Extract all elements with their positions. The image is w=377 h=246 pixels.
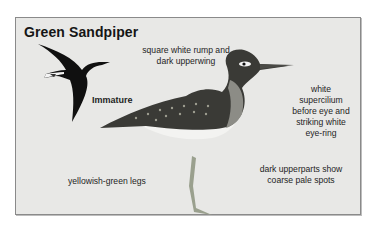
supercilium-line4: striking white bbox=[284, 117, 358, 128]
supercilium-line3: before eye and bbox=[284, 106, 358, 117]
rump-annotation: square white rump and dark upperwing bbox=[126, 45, 246, 67]
upperparts-annotation: dark upperparts show coarse pale spots bbox=[252, 164, 350, 186]
supercilium-annotation: white supercilium before eye and strikin… bbox=[284, 84, 358, 139]
flying-bird-icon bbox=[38, 44, 110, 122]
supercilium-line2: supercilium bbox=[284, 95, 358, 106]
legs-annotation: yellowish-green legs bbox=[68, 176, 146, 187]
supercilium-line5: eye-ring bbox=[284, 128, 358, 139]
rump-annotation-line2: dark upperwing bbox=[126, 56, 246, 67]
standing-bird-icon bbox=[100, 50, 294, 215]
immature-label: Immature bbox=[92, 95, 133, 106]
rump-annotation-line1: square white rump and bbox=[126, 45, 246, 56]
upperparts-line1: dark upperparts show bbox=[252, 164, 350, 175]
supercilium-line1: white bbox=[284, 84, 358, 95]
upperparts-line2: coarse pale spots bbox=[252, 175, 350, 186]
illustration-panel: Green Sandpiper bbox=[15, 17, 361, 215]
